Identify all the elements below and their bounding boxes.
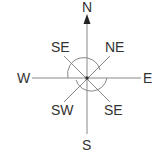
compass-diagram: N S W E SE NE SW SE	[0, 0, 157, 159]
label-upper-left: SE	[51, 39, 70, 55]
lower-arc	[76, 78, 107, 91]
label-upper-right: NE	[105, 39, 124, 55]
label-south: S	[82, 137, 91, 153]
label-east: E	[143, 70, 152, 86]
label-north: N	[82, 0, 92, 15]
upper-arc	[68, 58, 100, 78]
label-lower-right: SE	[104, 102, 123, 118]
label-lower-left: SW	[51, 102, 74, 118]
north-arrow-icon	[84, 14, 91, 24]
center-dot	[86, 77, 89, 80]
label-west: W	[17, 70, 31, 86]
